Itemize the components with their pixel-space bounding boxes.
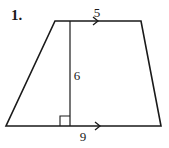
- right-angle-marker: [60, 116, 70, 126]
- top-base-label: 5: [94, 5, 101, 20]
- problem-number: 1.: [11, 7, 23, 23]
- trapezoid-figure: 1. 5 6 9: [0, 0, 169, 148]
- bottom-base-label: 9: [80, 129, 87, 144]
- trapezoid-diagram: 1. 5 6 9: [0, 0, 169, 148]
- trapezoid-outline: [6, 21, 161, 126]
- height-label: 6: [74, 68, 81, 83]
